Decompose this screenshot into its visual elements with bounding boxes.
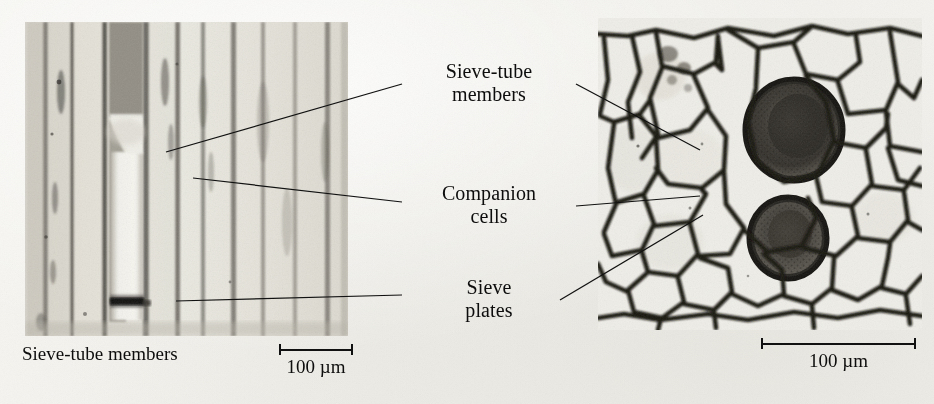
callout-companion-cells-line1: Companion (409, 182, 569, 205)
scalebar-line (279, 349, 353, 351)
longitudinal-section-micrograph (25, 22, 348, 336)
callout-sieve-plates-line1: Sieve (409, 276, 569, 299)
scalebar-longitudinal-label: 100 µm (279, 356, 353, 378)
scalebar-cross-label: 100 µm (761, 350, 916, 372)
scalebar-cap-right-icon (351, 344, 353, 355)
callout-sieve-tube-members-line1: Sieve-tube (409, 60, 569, 83)
scalebar-cap-right-icon (914, 338, 916, 349)
callout-sieve-plates-line2: plates (409, 299, 569, 322)
callout-companion-cells: Companion cells (409, 182, 569, 228)
scalebar-longitudinal-panel: 100 µm (279, 344, 353, 378)
callout-sieve-plates: Sieve plates (409, 276, 569, 322)
callout-companion-cells-line2: cells (409, 205, 569, 228)
phloem-micrograph-figure: Sieve-tube members Companion cells Sieve… (0, 0, 934, 404)
callout-sieve-tube-members: Sieve-tube members (409, 60, 569, 106)
cross-section-micrograph (598, 18, 922, 330)
scalebar-cross-rule (761, 338, 916, 349)
scalebar-cross-panel: 100 µm (761, 338, 916, 372)
callout-sieve-tube-members-line2: members (409, 83, 569, 106)
caption-longitudinal-panel: Sieve-tube members (22, 343, 178, 365)
scalebar-longitudinal-rule (279, 344, 353, 355)
scalebar-line (761, 343, 916, 345)
